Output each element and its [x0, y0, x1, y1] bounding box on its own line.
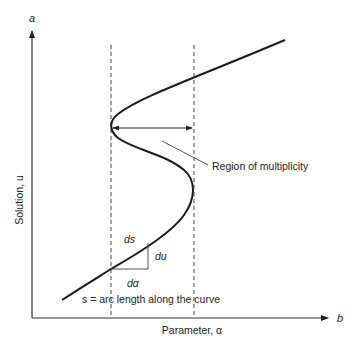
arc-length-annotation: s = arc length along the curve [82, 293, 220, 305]
ds-label: ds [124, 233, 136, 245]
region-of-multiplicity-label: Region of multiplicity [212, 160, 309, 172]
dalpha-label: dα [127, 277, 140, 289]
s-curve-diagram: a b Solution, u Parameter, α Region of m… [0, 0, 358, 349]
x-axis-end-label: b [337, 312, 343, 324]
du-label: du [155, 250, 167, 262]
y-axis-end-label: a [29, 12, 35, 24]
x-axis-title: Parameter, α [162, 324, 222, 336]
y-axis-title: Solution, u [13, 175, 25, 225]
